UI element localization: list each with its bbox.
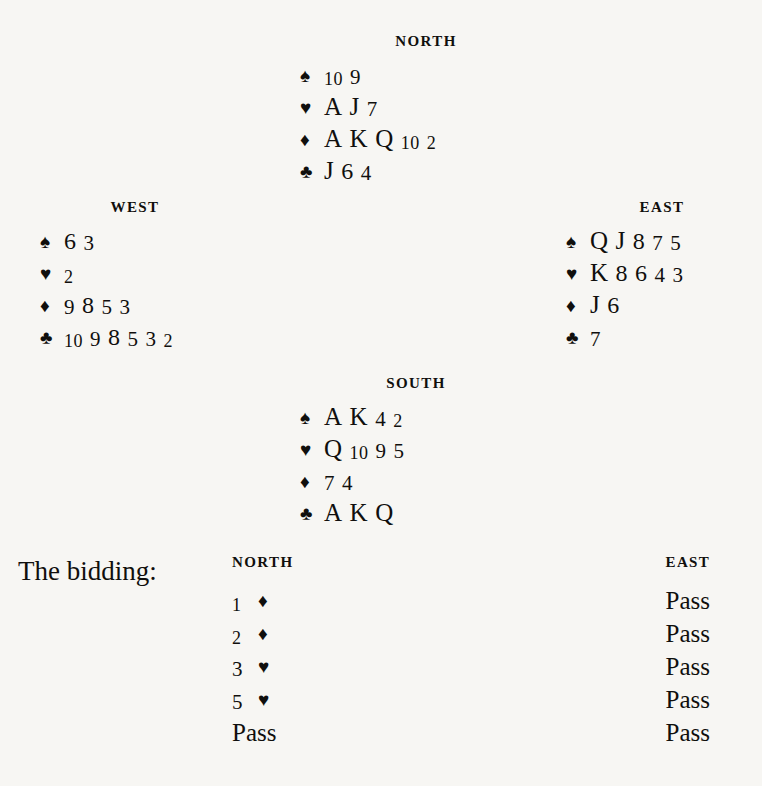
- spade-icon: ♠: [300, 66, 324, 85]
- card-rank: 8: [108, 324, 121, 350]
- hand-east: EAST ♠ QJ875 ♥ K8643 ♦ J6 ♣ 7: [566, 200, 722, 356]
- suit-row-clubs: ♣ 1098532: [40, 324, 210, 356]
- south-clubs-cards: AKQ: [324, 500, 394, 525]
- club-icon: ♣: [40, 328, 64, 347]
- suit-row-spades: ♠ QJ875: [566, 228, 722, 260]
- east-clubs-cards: 7: [590, 324, 601, 349]
- north-diamonds-cards: AKQ102: [324, 126, 436, 151]
- card-rank: 2: [427, 133, 437, 153]
- north-clubs-cards: J64: [324, 158, 372, 183]
- card-rank: 2: [64, 267, 74, 287]
- card-rank: A: [324, 499, 343, 526]
- card-rank: 3: [673, 263, 684, 287]
- card-rank: 4: [655, 263, 666, 287]
- card-rank: J: [616, 227, 626, 254]
- bid-cell-south: 4NT: [710, 650, 762, 683]
- card-rank: 6: [341, 158, 354, 184]
- west-diamonds-cards: 9853: [64, 292, 131, 317]
- card-rank: 10: [350, 443, 369, 463]
- west-hearts-cards: 2: [64, 260, 74, 285]
- card-rank: K: [590, 259, 609, 286]
- card-rank: A: [324, 93, 343, 120]
- club-icon: ♣: [566, 328, 590, 347]
- hand-west: WEST ♠ 63 ♥ 2 ♦ 9853 ♣ 1098532: [40, 200, 210, 356]
- card-rank: Q: [375, 125, 394, 152]
- card-rank: 6: [607, 292, 620, 318]
- bid-level: 3: [232, 659, 252, 680]
- suit-row-diamonds: ♦ 9853: [40, 292, 210, 324]
- card-rank: 10: [401, 133, 420, 153]
- card-rank: 9: [350, 65, 361, 89]
- bid-cell-north: 3♥: [0, 650, 293, 683]
- card-rank: 5: [394, 439, 405, 463]
- card-rank: 5: [670, 231, 681, 255]
- card-rank: 3: [120, 295, 131, 319]
- bid-call: Pass: [232, 719, 276, 746]
- suit-row-spades: ♠ 109: [300, 62, 496, 94]
- bidding-col-header-south: SOUTH: [710, 550, 762, 584]
- diamond-icon: ♦: [300, 472, 324, 491]
- diamond-icon: ♦: [566, 296, 590, 315]
- bid-call: Pass: [665, 587, 709, 614]
- card-rank: 6: [635, 260, 648, 286]
- east-hearts-cards: K8643: [590, 260, 684, 285]
- card-rank: J: [350, 93, 360, 120]
- hand-north-suits: ♠ 109 ♥ AJ7 ♦ AKQ102 ♣ J64: [300, 62, 496, 190]
- club-icon: ♣: [300, 162, 324, 181]
- card-rank: 9: [376, 439, 387, 463]
- bidding-col-header-east: EAST: [293, 550, 710, 584]
- suit-row-clubs: ♣ AKQ: [300, 500, 486, 532]
- card-rank: 8: [616, 260, 629, 286]
- bid-call: Pass: [665, 719, 709, 746]
- card-rank: A: [324, 403, 343, 430]
- spade-icon: ♠: [300, 408, 324, 427]
- card-rank: 4: [361, 161, 372, 185]
- south-spades-cards: AK42: [324, 404, 403, 429]
- bid-cell-east: Pass: [293, 683, 710, 716]
- card-rank: J: [324, 157, 334, 184]
- bid-cell-south: 6NT: [710, 683, 762, 716]
- bidding-row: 1♦Pass1♥Pass: [0, 584, 762, 617]
- club-icon: ♣: [300, 504, 324, 523]
- heart-icon: ♥: [300, 98, 324, 117]
- diamond-icon: ♦: [300, 130, 324, 149]
- bid-cell-north: 2♦: [0, 617, 293, 650]
- bid-cell-north: 1♦: [0, 584, 293, 617]
- suit-row-diamonds: ♦ AKQ102: [300, 126, 496, 158]
- card-rank: 5: [128, 327, 139, 351]
- bid-cell-east: Pass: [293, 617, 710, 650]
- bidding-col-header-north: NORTH: [0, 550, 293, 584]
- suit-row-spades: ♠ AK42: [300, 404, 486, 436]
- card-rank: 4: [375, 407, 386, 431]
- hand-label-east: EAST: [602, 200, 722, 215]
- bid-cell-east: Pass: [293, 650, 710, 683]
- card-rank: 7: [652, 231, 663, 255]
- card-rank: 10: [324, 69, 343, 89]
- card-rank: 9: [64, 295, 75, 319]
- hand-south: SOUTH ♠ AK42 ♥ Q1095 ♦ 74 ♣ AKQ: [300, 376, 486, 532]
- suit-row-hearts: ♥ AJ7: [300, 94, 496, 126]
- suit-row-diamonds: ♦ 74: [300, 468, 486, 500]
- card-rank: K: [350, 125, 369, 152]
- card-rank: K: [350, 499, 369, 526]
- west-clubs-cards: 1098532: [64, 324, 173, 349]
- card-rank: 2: [393, 411, 403, 431]
- hand-east-suits: ♠ QJ875 ♥ K8643 ♦ J6 ♣ 7: [566, 228, 722, 356]
- card-rank: 8: [633, 228, 646, 254]
- south-hearts-cards: Q1095: [324, 436, 405, 461]
- spade-icon: ♠: [40, 232, 64, 251]
- hand-label-west: WEST: [60, 200, 210, 215]
- bid-cell-east: Pass: [293, 584, 710, 617]
- south-diamonds-cards: 74: [324, 468, 353, 493]
- east-diamonds-cards: J6: [590, 292, 620, 317]
- card-rank: 3: [84, 231, 95, 255]
- bid-strain-suit-icon: ♥: [252, 690, 269, 709]
- bid-level: 5: [232, 692, 252, 713]
- bidding-row: 2♦Pass2♠Pass: [0, 617, 762, 650]
- suit-row-clubs: ♣ 7: [566, 324, 722, 356]
- bid-strain-suit-icon: ♦: [252, 591, 268, 610]
- bidding-table: NORTH EAST SOUTH WEST 1♦Pass1♥Pass2♦Pass…: [0, 550, 762, 749]
- hand-west-suits: ♠ 63 ♥ 2 ♦ 9853 ♣ 1098532: [40, 228, 210, 356]
- bid-strain-suit-icon: ♥: [252, 657, 269, 676]
- heart-icon: ♥: [566, 264, 590, 283]
